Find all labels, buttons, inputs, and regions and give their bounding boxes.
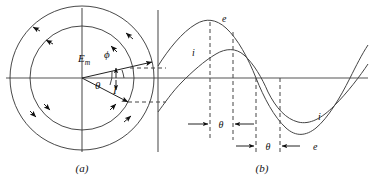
figure-canvas: Em ϕ θ I (a) — [0, 0, 371, 182]
panel-b-waveforms: θ θ e i i e (b) — [158, 10, 368, 175]
rotation-arrow-inner-lower-left — [44, 104, 50, 110]
panel-a-caption: (a) — [76, 162, 89, 175]
current-wave-label-left: i — [192, 47, 195, 58]
theta-label-second: θ — [266, 141, 271, 152]
voltage-wave-label-left: e — [222, 13, 227, 24]
emf-phasor-vector — [82, 62, 152, 78]
rotation-arrow-inner-lower-right — [110, 104, 116, 110]
rotation-arrow-outer-upper-right-head — [126, 33, 133, 39]
current-wave-label-right: i — [318, 111, 321, 122]
theta-marker-first: θ — [188, 119, 254, 130]
rotation-arrow-outer-lower-right — [124, 116, 131, 122]
voltage-wave-curve — [158, 20, 368, 134]
current-symbol-label: I — [112, 84, 118, 96]
current-phasor-vector — [82, 78, 128, 102]
theta-symbol-label: θ — [95, 79, 101, 91]
phi-angle-arc — [122, 70, 124, 78]
rotation-arrow-outer-upper-left — [33, 27, 40, 31]
theta-marker-second: θ — [236, 141, 300, 152]
rotation-arrow-inner-upper-right — [111, 46, 117, 52]
rotation-arrow-inner-upper-left — [46, 40, 53, 44]
current-wave-curve — [158, 50, 368, 123]
panel-b-caption: (b) — [256, 162, 269, 175]
theta-label-first: θ — [219, 119, 224, 130]
figure-container: Em ϕ θ I (a) — [0, 0, 371, 182]
rotation-arrow-outer-lower-left — [30, 111, 36, 117]
emf-symbol-label: Em — [77, 52, 91, 67]
panel-a-phasor-diagram: Em ϕ θ I (a) — [6, 6, 166, 175]
phi-symbol-label: ϕ — [104, 48, 110, 60]
voltage-wave-label-right: e — [313, 141, 318, 152]
